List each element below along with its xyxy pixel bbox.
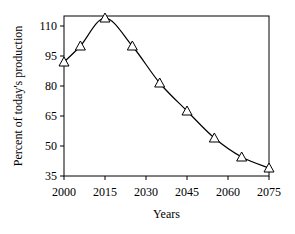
triangle-marker: [100, 13, 110, 22]
x-tick-label: 2000: [52, 185, 76, 199]
line-chart: 3550658095110200020152030204520602075Yea…: [0, 0, 295, 234]
triangle-marker: [237, 152, 247, 161]
y-tick-label: 50: [45, 139, 57, 153]
plot-frame: [64, 16, 269, 176]
y-tick-label: 110: [39, 19, 57, 33]
x-tick-label: 2060: [216, 185, 240, 199]
y-tick-label: 65: [45, 109, 57, 123]
chart: 3550658095110200020152030204520602075Yea…: [0, 0, 295, 234]
y-tick-label: 35: [45, 169, 57, 183]
x-tick-label: 2075: [257, 185, 281, 199]
x-axis-label: Years: [153, 207, 180, 221]
data-line: [64, 18, 269, 168]
x-tick-label: 2045: [175, 185, 199, 199]
triangle-marker: [264, 163, 274, 172]
y-tick-label: 95: [45, 49, 57, 63]
x-tick-label: 2030: [134, 185, 158, 199]
y-tick-label: 80: [45, 79, 57, 93]
y-axis-label: Percent of today's production: [11, 26, 25, 166]
x-tick-label: 2015: [93, 185, 117, 199]
